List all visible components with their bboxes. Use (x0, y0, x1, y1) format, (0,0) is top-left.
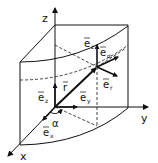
y-axis-label: y (141, 112, 148, 125)
label-ex-sub: x (50, 132, 54, 139)
dashed-base-radius (55, 107, 97, 126)
label-er-base: e (103, 79, 109, 90)
z-axis-label: z (42, 12, 48, 25)
label-ealpha-sub: α (107, 52, 111, 59)
angle-alpha-label: α (52, 118, 59, 129)
label-ey-base: e (80, 92, 86, 103)
label-er: e r (103, 79, 113, 91)
top-arc (20, 26, 128, 62)
label-ez-sub: z (45, 97, 48, 104)
top-left-edge (20, 25, 55, 62)
label-ez-point-sub: z (91, 43, 94, 50)
x-axis-label: x (20, 150, 27, 163)
mid-arc (20, 45, 128, 80)
label-e-alpha: e α (100, 47, 111, 59)
axes (8, 8, 148, 156)
label-ez-at-point: e z (84, 38, 94, 50)
label-er-sub: r (110, 84, 113, 91)
label-ez-point-base: e (84, 38, 90, 49)
cylindrical-coordinates-diagram: z y x α r e z e y e x e z e α (0, 0, 158, 163)
label-ey: e y (80, 92, 91, 105)
label-ez-base: e (38, 92, 44, 103)
label-ex-base: e (43, 127, 49, 138)
label-ey-sub: y (87, 97, 91, 105)
label-ez: e z (38, 92, 48, 104)
unit-vector-er (97, 67, 117, 76)
label-ealpha-base: e (100, 47, 106, 58)
label-r: r (63, 82, 68, 93)
label-r-text: r (63, 82, 68, 93)
